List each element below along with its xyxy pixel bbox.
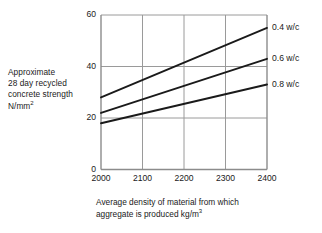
chart-figure: 60 40 20 0 2000 2100 2200 2300 2400 0.4 … — [0, 0, 322, 233]
series-label-0.4-wc: 0.4 w/c — [272, 22, 299, 32]
x-axis-title-line-2: aggregate is produced kg/m3 — [96, 209, 316, 221]
x-tick-label-2300: 2300 — [211, 173, 241, 183]
y-axis-title-line-2: 28 day recycled — [8, 78, 86, 89]
x-tick-label-2200: 2200 — [169, 173, 199, 183]
x-tick-label-2100: 2100 — [128, 173, 158, 183]
y-axis-title-superscript: 2 — [30, 100, 33, 106]
x-tick-label-2000: 2000 — [86, 173, 116, 183]
x-tick-label-2400: 2400 — [252, 173, 282, 183]
y-axis-title-line-3: concrete strength — [8, 89, 86, 100]
x-axis-title-superscript: 3 — [199, 208, 202, 214]
y-tick-label-60: 60 — [74, 9, 96, 19]
series-label-0.6-wc: 0.6 w/c — [272, 53, 299, 63]
x-axis-title-units: aggregate is produced kg/m — [96, 209, 199, 219]
y-axis-title-line-1: Approximate — [8, 67, 86, 78]
x-axis-title-line-1: Average density of material from which — [96, 197, 316, 209]
x-axis-title: Average density of material from which a… — [96, 197, 316, 220]
y-tick-label-20: 20 — [74, 112, 96, 122]
series-label-0.8-wc: 0.8 w/c — [272, 79, 299, 89]
y-axis-title: Approximate 28 day recycled concrete str… — [8, 67, 86, 112]
y-axis-title-units: N/mm — [8, 101, 30, 111]
y-axis-title-line-4: N/mm2 — [8, 101, 86, 112]
